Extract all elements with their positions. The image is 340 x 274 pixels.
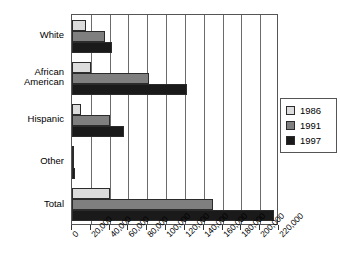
bar-chart: WhiteAfricanAmericanHispanicOtherTotal 1… [0,0,340,274]
plot-area [71,14,278,225]
bar-hispanic-1991 [72,115,110,126]
gridline [185,15,186,224]
legend-label: 1997 [300,135,321,146]
bar-hispanic-1986 [72,104,81,115]
bar-african-american-1991 [72,73,149,84]
bar-african-american-1986 [72,62,91,73]
legend-label: 1986 [300,105,321,116]
category-label: Hispanic [0,114,64,125]
legend-label: 1991 [300,120,321,131]
category-label-text: Hispanic [0,114,64,125]
legend-swatch-1997 [286,136,295,145]
legend-item-1997[interactable]: 1997 [286,133,332,147]
bar-other-1991 [72,157,74,168]
chart-legend: 198619911997 [280,98,337,153]
category-axis-labels: WhiteAfricanAmericanHispanicOtherTotal [0,14,68,225]
category-label: White [0,30,64,41]
x-axis-tick-label: 0 [70,229,80,239]
bar-hispanic-1997 [72,126,124,137]
bar-other-1997 [72,168,75,179]
gridline [241,15,242,224]
legend-item-1986[interactable]: 1986 [286,103,332,117]
gridline [166,15,167,224]
category-label-text: White [0,30,64,41]
category-label-text: Total [0,199,64,210]
legend-item-1991[interactable]: 1991 [286,118,332,132]
gridline [223,15,224,224]
bar-white-1991 [72,31,105,42]
gridline [260,15,261,224]
category-label-text: Other [0,156,64,167]
bar-total-1991 [72,199,213,210]
gridline [147,15,148,224]
category-label-text: American [0,77,64,88]
category-label: AfricanAmerican [0,67,64,88]
category-label: Total [0,199,64,210]
gridline [128,15,129,224]
bar-white-1986 [72,20,86,31]
legend-swatch-1986 [286,106,295,115]
bar-other-1986 [72,146,74,157]
bar-white-1997 [72,42,112,53]
legend-swatch-1991 [286,121,295,130]
category-label: Other [0,156,64,167]
gridline [204,15,205,224]
bar-african-american-1997 [72,84,187,95]
bar-total-1986 [72,188,110,199]
